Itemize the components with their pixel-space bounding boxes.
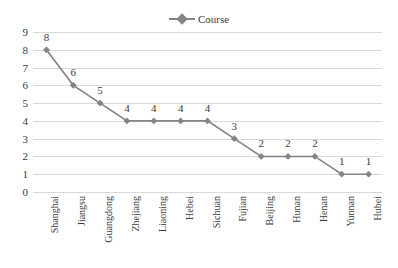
x-tick-label: Fujian bbox=[238, 196, 248, 222]
data-label: 4 bbox=[151, 103, 157, 114]
line-chart: Course 0123456789 8654444322211 Shanghai… bbox=[0, 0, 398, 268]
y-tick-label: 6 bbox=[0, 80, 28, 91]
y-tick-label: 4 bbox=[0, 115, 28, 126]
data-point-marker[interactable] bbox=[150, 117, 157, 124]
y-tick-label: 5 bbox=[0, 98, 28, 109]
chart-legend: Course bbox=[0, 11, 398, 27]
x-tick-label: Liaoning bbox=[158, 196, 168, 232]
x-tick-label: Hubei bbox=[373, 196, 383, 220]
data-label: 2 bbox=[285, 138, 291, 149]
y-tick-label: 2 bbox=[0, 151, 28, 162]
y-axis: 0123456789 bbox=[0, 32, 28, 192]
data-label: 4 bbox=[124, 103, 130, 114]
legend-entry-course[interactable]: Course bbox=[169, 14, 229, 25]
data-point-marker[interactable] bbox=[365, 171, 372, 178]
x-tick-label: Guangdong bbox=[104, 196, 114, 243]
y-tick-label: 1 bbox=[0, 169, 28, 180]
y-tick-label: 9 bbox=[0, 27, 28, 38]
data-label: 5 bbox=[97, 85, 103, 96]
y-tick-label: 3 bbox=[0, 133, 28, 144]
x-tick-label: Jiangsu bbox=[77, 196, 87, 226]
x-tick-label: Yunnan bbox=[346, 196, 356, 227]
data-label: 2 bbox=[258, 138, 264, 149]
data-label: 2 bbox=[312, 138, 318, 149]
x-tick-label: Beijing bbox=[265, 196, 275, 225]
data-point-marker[interactable] bbox=[285, 153, 292, 160]
x-tick-label: Hunan bbox=[292, 196, 302, 223]
gridline bbox=[33, 192, 382, 193]
data-label: 8 bbox=[44, 32, 50, 43]
data-label: 4 bbox=[205, 103, 211, 114]
y-tick-label: 7 bbox=[0, 62, 28, 73]
data-point-marker[interactable] bbox=[177, 117, 184, 124]
x-tick-label: Zhejiang bbox=[131, 196, 141, 232]
y-tick-label: 8 bbox=[0, 44, 28, 55]
x-tick-label: Sichuan bbox=[212, 196, 222, 228]
data-label: 1 bbox=[366, 156, 372, 167]
data-label: 4 bbox=[178, 103, 184, 114]
x-tick-label: Shanghai bbox=[50, 196, 60, 233]
x-tick-label: Henan bbox=[319, 196, 329, 222]
legend-label-course: Course bbox=[198, 14, 229, 25]
diamond-marker-icon bbox=[169, 14, 195, 24]
data-label: 3 bbox=[232, 121, 238, 132]
x-axis: ShanghaiJiangsuGuangdongZhejiangLiaoning… bbox=[33, 194, 382, 266]
data-label: 6 bbox=[71, 67, 77, 78]
y-tick-label: 0 bbox=[0, 187, 28, 198]
x-tick-label: Hebei bbox=[185, 196, 195, 220]
data-label: 1 bbox=[339, 156, 345, 167]
